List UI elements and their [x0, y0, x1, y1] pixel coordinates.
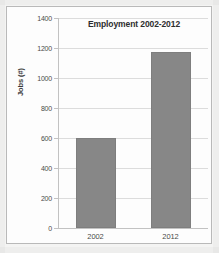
y-axis-tick	[54, 168, 58, 169]
y-axis-tick	[54, 48, 58, 49]
y-axis-tick-label: 200	[22, 195, 52, 202]
bar	[76, 138, 116, 228]
bar-chart: 0200400600800100012001400 Jobs (#) Emplo…	[0, 0, 219, 253]
y-axis-line	[58, 18, 59, 229]
scanned-page: 0200400600800100012001400 Jobs (#) Emplo…	[0, 0, 219, 253]
y-axis-tick	[54, 108, 58, 109]
chart-title: Employment 2002-2012	[62, 19, 206, 29]
y-axis-tick-labels: 0200400600800100012001400	[18, 18, 52, 228]
plot-area	[58, 18, 208, 228]
y-axis-tick	[54, 228, 58, 229]
x-axis-category-label: 2002	[87, 232, 103, 241]
y-axis-tick-label: 600	[22, 135, 52, 142]
x-axis-category-label: 2012	[162, 232, 178, 241]
bar	[151, 52, 191, 228]
y-axis-tick	[54, 18, 58, 19]
y-axis-tick-label: 400	[22, 165, 52, 172]
y-axis-tick	[54, 78, 58, 79]
y-axis-tick	[54, 198, 58, 199]
y-axis-tick-label: 1000	[22, 75, 52, 82]
y-axis-tick-label: 800	[22, 105, 52, 112]
y-axis-tick-label: 1200	[22, 45, 52, 52]
y-axis-tick-label: 0	[22, 225, 52, 232]
x-axis-category-labels: 20022012	[58, 232, 208, 246]
y-axis-tick	[54, 138, 58, 139]
gridline	[58, 228, 208, 229]
y-axis-tick-label: 1400	[22, 15, 52, 22]
gridline	[58, 48, 208, 49]
y-axis-title: Jobs (#)	[16, 68, 25, 96]
